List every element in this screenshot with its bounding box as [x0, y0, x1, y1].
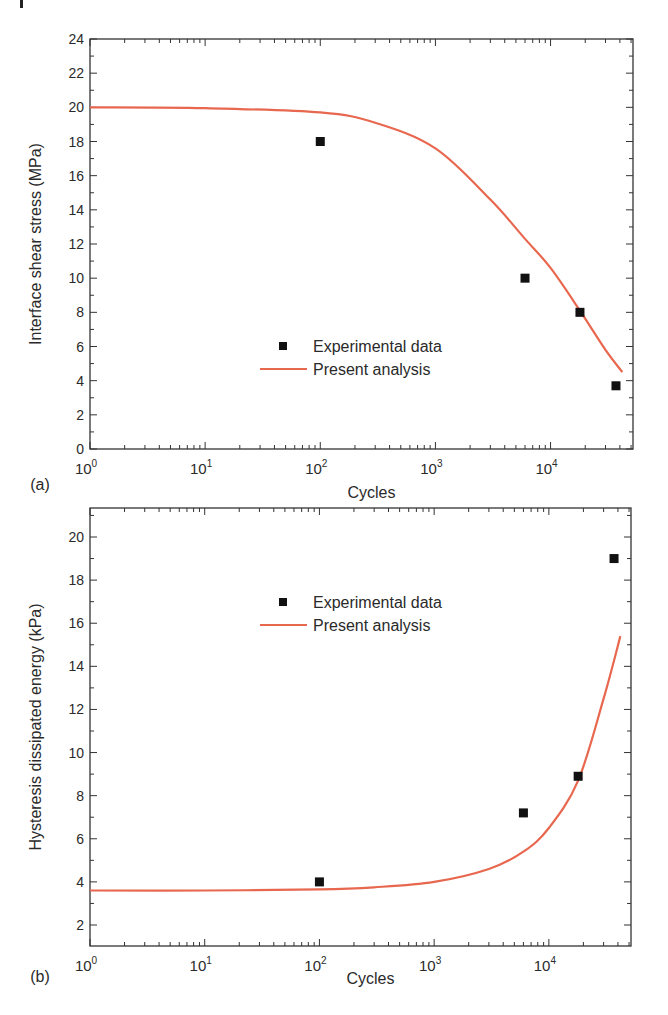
x-tick-label: 102 [305, 458, 328, 477]
y-tick-label: 6 [76, 831, 84, 847]
x-tick-label: 104 [535, 458, 558, 477]
plot-frame [90, 508, 631, 946]
y-tick-label: 24 [68, 31, 84, 47]
x-axis-label: Cycles [346, 970, 394, 987]
y-tick-label: 18 [68, 572, 84, 588]
y-tick-label: 4 [76, 874, 84, 890]
x-tick-label: 101 [190, 458, 213, 477]
y-axis-label: Hysteresis dissipated energy (kPa) [27, 603, 44, 850]
x-tick-label: 101 [190, 955, 213, 974]
y-tick-label: 10 [68, 270, 84, 286]
legend-label-analysis: Present analysis [313, 617, 430, 634]
x-tick-label: 100 [75, 955, 98, 974]
y-tick-label: 8 [76, 304, 84, 320]
panel-label: (a) [30, 476, 50, 493]
y-tick-label: 20 [68, 529, 84, 545]
legend-label-analysis: Present analysis [313, 361, 430, 378]
y-tick-label: 22 [68, 65, 84, 81]
x-tick-label: 102 [304, 955, 327, 974]
y-tick-label: 16 [68, 168, 84, 184]
legend: Experimental dataPresent analysis [260, 594, 442, 634]
experimental-data-point [521, 274, 530, 283]
experimental-data-point [574, 772, 583, 781]
y-tick-label: 12 [68, 236, 84, 252]
legend-label-experimental: Experimental data [313, 338, 442, 355]
x-tick-label: 103 [419, 955, 442, 974]
experimental-data-point [316, 137, 325, 146]
experimental-data-point [575, 308, 584, 317]
experimental-data-point [519, 808, 528, 817]
experimental-data-point [611, 381, 620, 390]
legend-label-experimental: Experimental data [313, 594, 442, 611]
y-tick-label: 10 [68, 745, 84, 761]
x-tick-label: 100 [75, 458, 98, 477]
y-tick-label: 16 [68, 615, 84, 631]
y-tick-label: 6 [76, 339, 84, 355]
legend-marker-icon [279, 598, 287, 606]
experimental-data-point [315, 877, 324, 886]
y-tick-label: 2 [76, 917, 84, 933]
analysis-curve [90, 636, 620, 890]
y-tick-label: 2 [76, 407, 84, 423]
y-tick-label: 20 [68, 99, 84, 115]
y-tick-label: 14 [68, 658, 84, 674]
legend-marker-icon [279, 342, 287, 350]
chart-panel-b: 1001011021031042468101214161820CyclesHys… [27, 508, 631, 987]
y-tick-label: 14 [68, 202, 84, 218]
y-tick-label: 8 [76, 788, 84, 804]
panel-label: (b) [30, 968, 50, 985]
x-tick-label: 104 [534, 955, 557, 974]
x-axis-label: Cycles [347, 484, 395, 501]
y-tick-label: 4 [76, 373, 84, 389]
chart-panel-a: 100101102103104024681012141618202224Cycl… [27, 31, 633, 501]
figure: 100101102103104024681012141618202224Cycl… [0, 0, 668, 1015]
x-tick-label: 103 [420, 458, 443, 477]
y-tick-label: 0 [76, 441, 84, 457]
legend: Experimental dataPresent analysis [260, 338, 442, 378]
analysis-curve [90, 107, 622, 372]
experimental-data-point [610, 554, 619, 563]
plot-frame [90, 39, 633, 449]
y-axis-label: Interface shear stress (MPa) [27, 143, 44, 345]
y-tick-label: 12 [68, 701, 84, 717]
y-tick-label: 18 [68, 134, 84, 150]
